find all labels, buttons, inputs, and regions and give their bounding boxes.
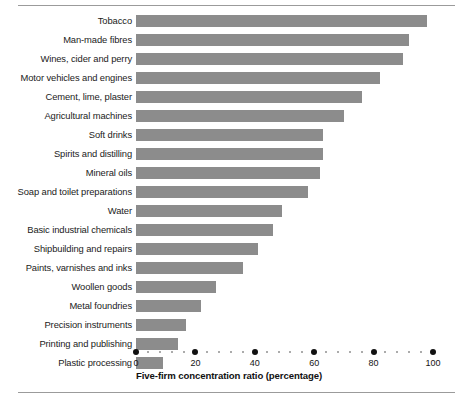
bar (136, 319, 186, 331)
bottom-divider-rule (18, 392, 455, 393)
category-label: Metal foundries (69, 297, 132, 316)
category-label: Precision instruments (44, 316, 132, 335)
bar (136, 167, 320, 179)
bar (136, 300, 201, 312)
axis-minor-tick (147, 351, 149, 353)
category-label: Cement, lime, plaster (46, 88, 132, 107)
x-axis: 020406080100 (0, 349, 459, 361)
bar (136, 243, 258, 255)
category-label: Soap and toilet preparations (18, 183, 132, 202)
chart-figure: TobaccoMan-made fibresWines, cider and p… (0, 0, 459, 400)
axis-minor-tick (171, 351, 173, 353)
axis-minor-tick (218, 351, 220, 353)
axis-minor-tick (242, 351, 244, 353)
bar (136, 110, 344, 122)
axis-minor-tick (289, 351, 291, 353)
axis-minor-tick (420, 351, 422, 353)
axis-minor-tick (266, 351, 268, 353)
axis-minor-tick (337, 351, 339, 353)
axis-minor-tick (408, 351, 410, 353)
axis-major-tick (430, 349, 436, 355)
category-label: Agricultural machines (44, 107, 132, 126)
axis-minor-tick (361, 351, 363, 353)
axis-tick-label: 100 (425, 358, 440, 368)
category-label: Shipbuilding and repairs (34, 240, 132, 259)
bar-row: Woollen goods (0, 278, 459, 297)
axis-minor-tick (325, 351, 327, 353)
category-label: Motor vehicles and engines (20, 69, 132, 88)
axis-minor-tick (301, 351, 303, 353)
bar-row: Tobacco (0, 12, 459, 31)
bar-row: Agricultural machines (0, 107, 459, 126)
bar-row: Metal foundries (0, 297, 459, 316)
axis-minor-tick (349, 351, 351, 353)
bar (136, 186, 308, 198)
category-label: Soft drinks (89, 126, 132, 145)
bar-row: Wines, cider and perry (0, 50, 459, 69)
bar-row: Man-made fibres (0, 31, 459, 50)
axis-tick-label: 60 (309, 358, 319, 368)
bar (136, 281, 216, 293)
bar (136, 224, 273, 236)
category-label: Water (108, 202, 132, 221)
bar (136, 15, 427, 27)
bar-plot-area: TobaccoMan-made fibresWines, cider and p… (0, 12, 459, 373)
category-label: Paints, varnishes and inks (26, 259, 132, 278)
category-label: Mineral oils (86, 164, 132, 183)
bar (136, 72, 380, 84)
bar-row: Spirits and distilling (0, 145, 459, 164)
bar (136, 53, 403, 65)
bar-row: Soft drinks (0, 126, 459, 145)
axis-tick-label: 80 (369, 358, 379, 368)
bar (136, 34, 409, 46)
axis-minor-tick (183, 351, 185, 353)
category-label: Basic industrial chemicals (27, 221, 132, 240)
bar-row: Precision instruments (0, 316, 459, 335)
bar-row: Basic industrial chemicals (0, 221, 459, 240)
bar (136, 205, 282, 217)
bar-row: Paints, varnishes and inks (0, 259, 459, 278)
bar (136, 148, 323, 160)
bar (136, 262, 243, 274)
category-label: Spirits and distilling (54, 145, 132, 164)
axis-minor-tick (159, 351, 161, 353)
axis-minor-tick (206, 351, 208, 353)
category-label: Wines, cider and perry (40, 50, 132, 69)
category-label: Woollen goods (71, 278, 132, 297)
bar-row: Water (0, 202, 459, 221)
axis-major-tick (192, 349, 198, 355)
axis-major-tick (133, 349, 139, 355)
category-label: Man-made fibres (63, 31, 132, 50)
bar-row: Cement, lime, plaster (0, 88, 459, 107)
bar-row: Motor vehicles and engines (0, 69, 459, 88)
top-divider-rule (18, 5, 455, 6)
axis-tick-label: 0 (133, 358, 138, 368)
axis-major-tick (371, 349, 377, 355)
axis-tick-label: 20 (190, 358, 200, 368)
axis-tick-label: 40 (250, 358, 260, 368)
axis-major-tick (252, 349, 258, 355)
bar-row: Shipbuilding and repairs (0, 240, 459, 259)
category-label: Tobacco (98, 12, 132, 31)
axis-minor-tick (230, 351, 232, 353)
x-axis-title: Five-firm concentration ratio (percentag… (136, 370, 322, 381)
bar (136, 129, 323, 141)
bar-row: Soap and toilet preparations (0, 183, 459, 202)
axis-minor-tick (384, 351, 386, 353)
axis-major-tick (311, 349, 317, 355)
axis-minor-tick (278, 351, 280, 353)
axis-minor-tick (396, 351, 398, 353)
bar-row: Mineral oils (0, 164, 459, 183)
bar (136, 91, 362, 103)
